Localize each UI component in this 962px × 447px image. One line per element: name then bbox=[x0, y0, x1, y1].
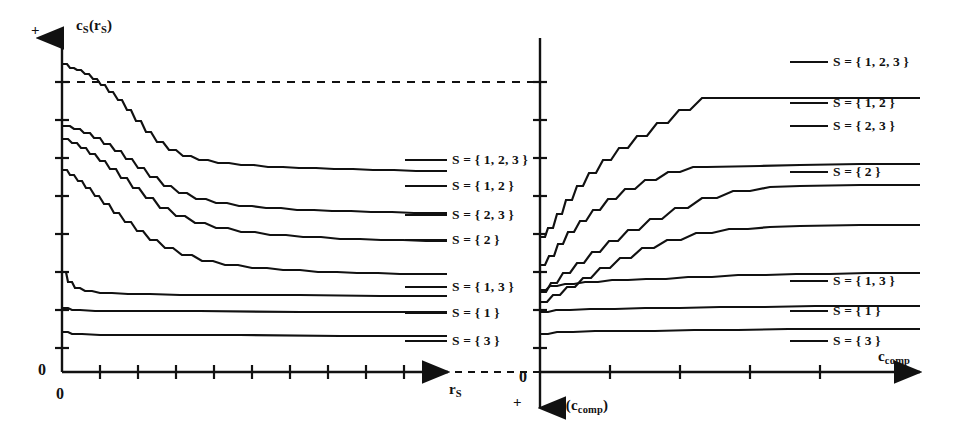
legend-left-item-s12: S = { 1, 2 } bbox=[452, 178, 514, 194]
right-x-axis-label: ccomp bbox=[878, 348, 910, 366]
left-curves bbox=[63, 64, 447, 336]
left-y-axis-label-main: c bbox=[76, 17, 83, 33]
right-x-axis-label-main: c bbox=[878, 348, 885, 364]
right-y-axis-label-close: ) bbox=[603, 397, 608, 413]
legend-left-item-s123: S = { 1, 2, 3 } bbox=[452, 152, 528, 168]
legend-right-item-s13: S = { 1, 3 } bbox=[833, 273, 895, 289]
legend-right-item-s3: S = { 3 } bbox=[833, 333, 881, 349]
left-legend-rules bbox=[405, 160, 447, 341]
right-positive-marker: + bbox=[513, 394, 522, 411]
right-legend-rules bbox=[790, 62, 828, 341]
legend-right-item-s1: S = { 1 } bbox=[833, 303, 881, 319]
curve-left-s2 bbox=[63, 170, 447, 274]
left-y-origin-label: 0 bbox=[38, 361, 46, 379]
legend-left-item-s23: S = { 2, 3 } bbox=[452, 207, 514, 223]
legend-right-item-s23: S = { 2, 3 } bbox=[833, 118, 895, 134]
figure-canvas bbox=[0, 0, 962, 447]
legend-right-item-s12: S = { 1, 2 } bbox=[833, 95, 895, 111]
left-x-origin-label: 0 bbox=[56, 385, 64, 403]
legend-right-item-s2: S = { 2 } bbox=[833, 164, 881, 180]
right-origin-label: 0 bbox=[519, 368, 527, 386]
left-x-axis-label-sub: S bbox=[456, 388, 462, 399]
curve-right-s2 bbox=[541, 225, 920, 302]
legend-left-item-s3: S = { 3 } bbox=[452, 333, 500, 349]
legend-right-item-s123: S = { 1, 2, 3 } bbox=[833, 54, 909, 70]
legend-left-item-s13: S = { 1, 3 } bbox=[452, 279, 514, 295]
right-y-axis-label-main: v bbox=[552, 397, 560, 413]
right-y-axis-label-arg: (c bbox=[566, 397, 578, 413]
left-y-axis-label-arg: (r bbox=[89, 17, 101, 33]
curve-left-s13 bbox=[63, 272, 447, 296]
left-y-axis-label: cS(rS) bbox=[76, 17, 112, 35]
curve-left-s123 bbox=[63, 64, 447, 171]
left-positive-marker: + bbox=[31, 22, 40, 39]
left-x-axis-label: rS bbox=[449, 381, 462, 399]
right-y-axis-label-arg-sub: comp bbox=[578, 404, 603, 415]
right-y-axis-label: vS(ccomp) bbox=[552, 397, 608, 415]
legend-left-item-s1: S = { 1 } bbox=[452, 305, 500, 321]
right-panel bbox=[533, 38, 920, 408]
left-y-axis-label-close: ) bbox=[107, 17, 112, 33]
right-x-axis-label-sub: comp bbox=[885, 355, 910, 366]
curve-left-s23 bbox=[63, 139, 447, 241]
curve-left-s1 bbox=[63, 308, 447, 312]
left-x-axis-label-main: r bbox=[449, 381, 456, 397]
curve-left-s3 bbox=[63, 332, 447, 336]
legend-left-item-s2: S = { 2 } bbox=[452, 232, 500, 248]
